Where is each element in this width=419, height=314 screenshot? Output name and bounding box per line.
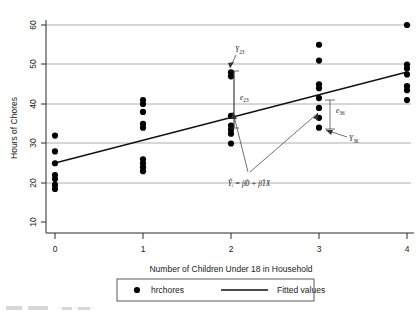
- data-point: [404, 97, 410, 103]
- artifact-block-1: [6, 306, 22, 310]
- data-point: [52, 176, 58, 182]
- data-point: [404, 71, 410, 77]
- data-point: [404, 22, 410, 28]
- x-tick-label-0: 0: [53, 244, 58, 254]
- data-point: [140, 168, 146, 174]
- chart-figure: 60 50 40 30 20 10 Hours of Chores 0 1 2 …: [0, 0, 419, 314]
- y-tick-label-10: 10: [28, 217, 38, 227]
- data-point: [228, 73, 234, 79]
- x-tick-label-2: 2: [229, 244, 234, 254]
- data-point: [316, 57, 322, 63]
- leader-line-equation-left: [233, 112, 248, 172]
- y-axis-title: Hours of Chores: [9, 97, 19, 159]
- data-point: [228, 131, 234, 137]
- artifact-block-3: [62, 307, 72, 310]
- residual-marker-e23: [229, 71, 239, 128]
- legend-label-hrchores: hrchores: [151, 285, 184, 295]
- data-point: [404, 87, 410, 93]
- artifact-block-2: [28, 306, 48, 310]
- x-tick-label-4: 4: [405, 244, 410, 254]
- y-tick-labels: 60 50 40 30 20 10: [28, 20, 38, 227]
- annotation-regression-equation: Ŷᵢ = β̂0 + β̂1X: [228, 178, 271, 188]
- data-point: [404, 65, 410, 71]
- chart-legend: hrchores Fitted values: [117, 279, 325, 301]
- x-tick-labels: 0 1 2 3 4: [53, 244, 410, 254]
- x-axis-title: Number of Children Under 18 in Household: [149, 264, 312, 274]
- y-tick-label-20: 20: [28, 178, 38, 188]
- leader-y23: [228, 55, 236, 68]
- data-point: [52, 133, 58, 139]
- gridlines: [46, 25, 411, 183]
- leader-equation: [231, 112, 318, 172]
- data-point: [52, 160, 58, 166]
- data-point: [316, 85, 322, 91]
- page-edge-artifact: [6, 306, 90, 310]
- annotation-e23: e23: [240, 93, 249, 103]
- data-point: [52, 186, 58, 192]
- data-point: [140, 125, 146, 131]
- data-point: [316, 95, 322, 101]
- x-tick-label-3: 3: [317, 244, 322, 254]
- data-point: [316, 125, 322, 131]
- y-tick-label-40: 40: [28, 99, 38, 109]
- data-point: [140, 101, 146, 107]
- data-point: [316, 105, 322, 111]
- scatter-plot-svg: 60 50 40 30 20 10 Hours of Chores 0 1 2 …: [0, 0, 419, 314]
- artifact-block-4: [78, 307, 90, 310]
- annotation-y36: Y36: [349, 134, 359, 144]
- y-tick-label-50: 50: [28, 59, 38, 69]
- data-point: [316, 42, 322, 48]
- data-points-layer: [52, 22, 410, 192]
- data-point: [52, 148, 58, 154]
- leader-arrow-y23: [228, 62, 234, 68]
- y-tick-label-30: 30: [28, 138, 38, 148]
- leader-arrow-y36: [326, 130, 333, 135]
- annotation-e36: e36: [336, 106, 345, 116]
- data-point: [228, 140, 234, 146]
- annotation-y23: Y23: [235, 45, 245, 55]
- data-point: [140, 109, 146, 115]
- x-tick-label-1: 1: [141, 244, 146, 254]
- leader-y36: [326, 130, 347, 137]
- legend-marker-hrchores: [134, 287, 140, 293]
- axes: [41, 20, 414, 239]
- y-tick-label-60: 60: [28, 20, 38, 30]
- legend-label-fitted-values: Fitted values: [277, 285, 325, 295]
- leader-line-equation-right: [250, 113, 318, 172]
